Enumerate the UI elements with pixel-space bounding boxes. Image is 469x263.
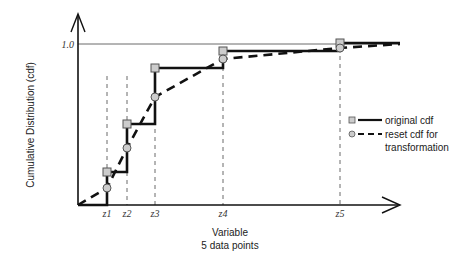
tick-z2: z2 (122, 208, 132, 219)
legend: original cdf reset cdf for transformatio… (349, 115, 449, 153)
legend-original: original cdf (385, 115, 434, 126)
circle-marker-icon (349, 131, 355, 137)
z-guides (107, 48, 340, 205)
x-axis-label: Variable (212, 227, 248, 238)
y-axis-label: Cumulative Distribution (cdf) (25, 62, 36, 188)
legend-reset: reset cdf for (385, 129, 438, 140)
tick-z3: z3 (150, 208, 160, 219)
tick-z4: z4 (218, 208, 228, 219)
y-one-label: 1.0 (62, 39, 75, 50)
cdf-diagram: 1.0 z1 z2 z3 z4 z5 Variable 5 data point… (0, 0, 469, 263)
tick-z1: z1 (102, 208, 112, 219)
square-marker-icon (349, 117, 355, 123)
x-axis-sublabel: 5 data points (201, 240, 258, 251)
tick-z5: z5 (335, 208, 345, 219)
legend-reset-2: transformation (385, 142, 449, 153)
